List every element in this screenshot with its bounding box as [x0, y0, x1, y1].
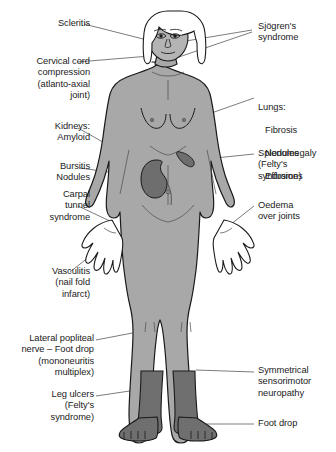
label-splenomegaly: Splenomegaly (Felty's syndrome) — [258, 148, 336, 182]
left-foot — [119, 417, 158, 441]
right-knee-mark-b — [190, 322, 191, 332]
label-vasculitis: Vasculitis (nail fold infarct) — [6, 266, 90, 300]
left-nipple — [150, 118, 154, 122]
diagram-canvas: Scleritis Cervical cord compression (atl… — [0, 0, 336, 452]
body-group — [82, 11, 254, 443]
label-oedema-over-joints: Oedema over joints — [258, 200, 334, 223]
label-scleritis: Scleritis — [6, 18, 90, 29]
right-foot — [178, 417, 217, 441]
label-leg-ulcers: Leg ulcers (Felty's syndrome) — [4, 389, 94, 423]
label-lateral-popliteal-nerve: Lateral popliteal nerve – Foot drop (mon… — [2, 333, 94, 379]
right-hand — [213, 220, 254, 274]
label-bursitis-nodules: Bursitis Nodules — [6, 161, 90, 184]
label-cervical-cord-compression: Cervical cord compression (atlanto-axial… — [4, 56, 90, 102]
right-pupil — [173, 34, 176, 37]
right-nipple — [182, 118, 186, 122]
leader-symmetrical — [196, 370, 254, 372]
label-carpal-tunnel-syndrome: Carpal tunnel syndrome — [6, 189, 90, 223]
label-lungs-heading: Lungs: — [258, 102, 334, 113]
label-sjogrens-syndrome: Sjögren's syndrome — [258, 21, 334, 44]
label-lungs-fibrosis: Fibrosis — [258, 125, 334, 136]
left-pupil — [159, 34, 162, 37]
label-kidneys-amyloid: Kidneys: Amyloid — [6, 121, 90, 144]
label-symmetrical-sensorimotor-neuropathy: Symmetrical sensorimotor neuropathy — [258, 365, 336, 399]
label-foot-drop: Foot drop — [258, 418, 334, 429]
